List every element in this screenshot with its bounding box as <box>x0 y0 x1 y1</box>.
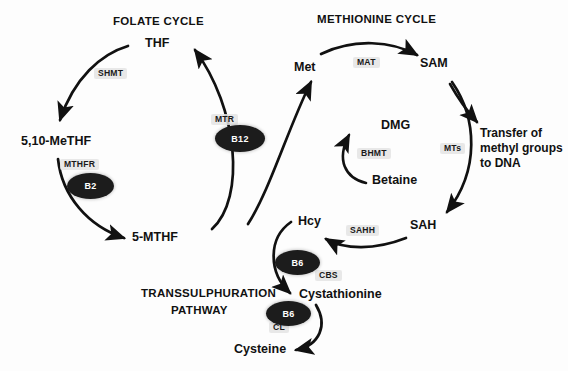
metabolite-cystathionine: Cystathionine <box>299 288 382 301</box>
section-title-methionine-cycle: METHIONINE CYCLE <box>317 13 436 25</box>
vitamin-b6-cbs-label: B6 <box>291 258 303 268</box>
metabolite-dmg: DMG <box>381 119 410 132</box>
vitamin-b12-badge: B12 <box>215 125 265 152</box>
metabolite-cysteine: Cysteine <box>234 343 286 356</box>
vitamin-b2-badge: B2 <box>67 173 114 199</box>
metabolite-sah: SAH <box>410 219 436 232</box>
vitamin-b6-cl-label: B6 <box>282 309 294 319</box>
metabolite-5-10-methf: 5,10-MeTHF <box>21 135 91 148</box>
metabolite-betaine: Betaine <box>372 174 417 187</box>
enzyme-bhmt: BHMT <box>357 148 391 159</box>
metabolite-met: Met <box>294 61 316 74</box>
arrow-sah-to-hcy <box>326 238 406 247</box>
section-title-folate-cycle: FOLATE CYCLE <box>113 15 204 27</box>
enzyme-mtr: MTR <box>211 114 238 125</box>
metabolite-thf: THF <box>145 37 169 50</box>
vitamin-b12-label: B12 <box>231 134 248 144</box>
arrow-thf-to-methf <box>60 46 128 120</box>
metabolite-hcy: Hcy <box>298 215 321 228</box>
arrow-met-to-sam <box>321 43 417 55</box>
enzyme-mthfr: MTHFR <box>60 159 99 170</box>
enzyme-cbs: CBS <box>315 270 342 281</box>
metabolite-methyl-transfer-to-dna: Transfer of methyl groups to DNA <box>480 126 563 171</box>
metabolite-sam: SAM <box>420 57 448 70</box>
vitamin-b2-label: B2 <box>84 181 96 191</box>
enzyme-shmt: SHMT <box>94 68 127 79</box>
enzyme-sahh: SAHH <box>346 225 379 236</box>
section-title-transsulphuration: TRANSSULPHURATION <box>141 287 276 299</box>
enzyme-mat: MAT <box>353 57 380 68</box>
section-title-transsulphuration-pathway: PATHWAY <box>171 304 228 316</box>
vitamin-b6-cbs-badge: B6 <box>275 250 320 275</box>
enzyme-mts: MTs <box>440 143 465 154</box>
pathway-diagram: FOLATE CYCLE METHIONINE CYCLE TRANSSULPH… <box>0 0 568 371</box>
metabolite-5-mthf: 5-MTHF <box>132 231 178 244</box>
arrow-hcy-to-met <box>248 82 311 224</box>
vitamin-b6-cl-badge: B6 <box>266 301 311 326</box>
